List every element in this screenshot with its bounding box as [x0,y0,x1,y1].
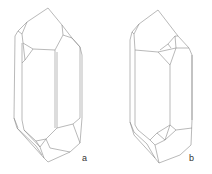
crystal-a [14,8,82,162]
panel-label-a: a [82,153,87,163]
panel-label-b: b [189,153,194,163]
crystal-b [130,10,192,163]
crystal-figure [0,0,212,174]
